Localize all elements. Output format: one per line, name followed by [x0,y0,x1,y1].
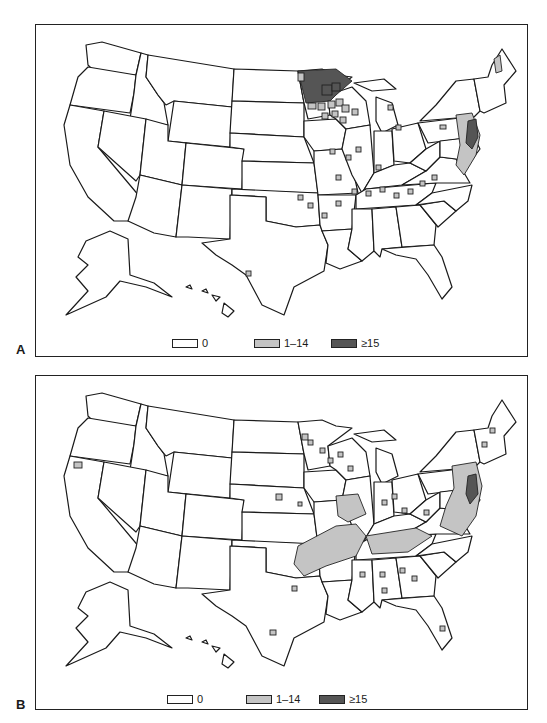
legend-item-15-plus: ≥15 [319,693,367,705]
us-county-map-b [36,376,526,676]
map-panel-a: 0 1–14 ≥15 [35,24,528,357]
us-county-map-a [36,25,526,325]
legend-item-15-plus: ≥15 [331,337,379,349]
legend-swatch-low [254,339,280,348]
legend-item-0: 0 [167,693,203,705]
legend-label: 1–14 [284,337,308,349]
panel-label-a: A [16,342,25,357]
legend-b: 0 1–14 ≥15 [36,693,527,707]
legend-swatch-zero [167,695,193,704]
legend-item-1-14: 1–14 [246,693,300,705]
legend-item-1-14: 1–14 [254,337,308,349]
legend-a: 0 1–14 ≥15 [36,337,527,351]
legend-label: 0 [202,337,208,349]
legend-label: ≥15 [361,337,379,349]
legend-label: 1–14 [276,693,300,705]
legend-label: ≥15 [349,693,367,705]
legend-swatch-low [246,695,272,704]
state-outlines [64,393,516,668]
legend-swatch-high [331,339,357,348]
state-outlines [64,42,516,317]
panel-label-b: B [16,697,25,712]
map-panel-b: 0 1–14 ≥15 [35,375,528,710]
legend-swatch-zero [172,339,198,348]
legend-swatch-high [319,695,345,704]
legend-item-0: 0 [172,337,208,349]
legend-label: 0 [197,693,203,705]
